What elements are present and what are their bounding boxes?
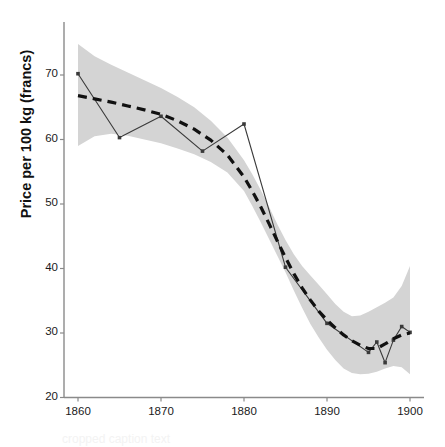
- x-axis-tick-label: 1870: [139, 405, 183, 417]
- y-axis-title: Price per 100 kg (francs): [18, 14, 34, 254]
- x-axis-tick-label: 1900: [388, 405, 432, 417]
- data-point-marker: [201, 149, 205, 153]
- chart-figure: 203040506070 18601870188018901900 Price …: [0, 0, 445, 447]
- x-axis-tick-label: 1890: [305, 405, 349, 417]
- data-point-marker: [367, 351, 371, 355]
- x-axis-tick-label: 1880: [222, 405, 266, 417]
- data-point-marker: [375, 340, 379, 344]
- data-point-marker: [284, 265, 288, 269]
- data-point-marker: [159, 114, 163, 118]
- y-axis-tick-label: 30: [30, 325, 58, 337]
- data-point-marker: [118, 136, 122, 140]
- y-axis-tick-label: 70: [30, 67, 58, 79]
- y-axis-tick-label: 40: [30, 261, 58, 273]
- confidence-band-area: [78, 44, 410, 374]
- data-point-marker: [383, 361, 387, 365]
- y-axis-tick-label: 60: [30, 132, 58, 144]
- confidence-band: [78, 44, 410, 374]
- data-point-marker: [242, 122, 246, 126]
- price-trend-chart: [0, 0, 445, 447]
- data-point-marker: [400, 325, 404, 329]
- x-axis-tick-label: 1860: [56, 405, 100, 417]
- y-axis-tick-label: 50: [30, 196, 58, 208]
- y-axis-tick-label: 20: [30, 390, 58, 402]
- figure-caption: cropped caption text: [62, 432, 392, 446]
- data-point-marker: [76, 72, 80, 76]
